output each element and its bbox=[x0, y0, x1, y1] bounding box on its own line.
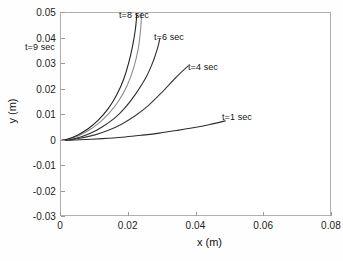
curve-label-t-8-sec: t=8 sec bbox=[119, 10, 149, 20]
curve-t-8-sec bbox=[61, 13, 142, 141]
curve-label-t-1-sec: t=1 sec bbox=[222, 112, 252, 122]
x-tick-label: 0 bbox=[57, 220, 63, 231]
y-tick-label: 0.05 bbox=[14, 7, 56, 18]
y-tick-mark bbox=[61, 140, 65, 141]
x-tick-label: 0.02 bbox=[118, 220, 138, 231]
y-tick-mark bbox=[61, 191, 65, 192]
y-tick-mark bbox=[61, 63, 65, 64]
y-tick-label: 0.03 bbox=[14, 58, 56, 69]
y-tick-mark bbox=[61, 114, 65, 115]
x-axis-title-text: x (m) bbox=[197, 236, 222, 248]
x-tick-mark bbox=[196, 212, 197, 216]
curve-t-6-sec bbox=[61, 39, 160, 141]
y-tick-label: 0.01 bbox=[14, 109, 56, 120]
y-tick-label: -0.02 bbox=[14, 185, 56, 196]
y-tick-mark bbox=[61, 89, 65, 90]
x-tick-label: 0.06 bbox=[253, 220, 273, 231]
y-tick-mark bbox=[61, 165, 65, 166]
x-tick-label: 0.04 bbox=[186, 220, 206, 231]
x-tick-mark bbox=[331, 212, 332, 216]
y-axis-title: y (m) bbox=[6, 81, 18, 141]
figure-canvas: 00.020.040.060.08 0.050.040.030.020.010-… bbox=[0, 0, 343, 261]
y-tick-label: -0.01 bbox=[14, 160, 56, 171]
x-tick-mark bbox=[128, 212, 129, 216]
x-axis-title: x (m) bbox=[0, 236, 343, 248]
y-tick-label: 0 bbox=[14, 134, 56, 145]
curve-label-t-9-sec: t=9 sec bbox=[25, 42, 55, 52]
y-tick-mark bbox=[61, 216, 65, 217]
curve-plot bbox=[61, 13, 332, 217]
y-tick-label: -0.03 bbox=[14, 211, 56, 222]
x-tick-label: 0.08 bbox=[321, 220, 341, 231]
y-tick-mark bbox=[61, 12, 65, 13]
y-tick-label: 0.02 bbox=[14, 83, 56, 94]
x-tick-mark bbox=[263, 212, 264, 216]
curve-label-t-4-sec: t=4 sec bbox=[188, 62, 218, 72]
plot-area bbox=[60, 12, 331, 216]
curve-label-t-6-sec: t=6 sec bbox=[154, 32, 184, 42]
y-tick-mark bbox=[61, 38, 65, 39]
